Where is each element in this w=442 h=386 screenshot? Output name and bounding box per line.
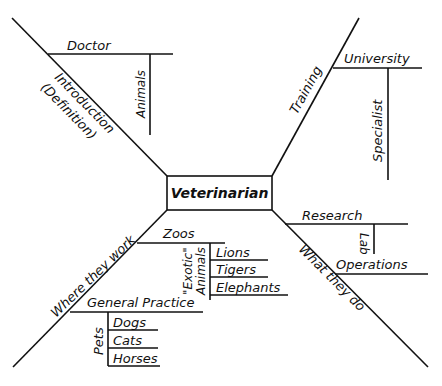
branch-where-they-work: Where they work Zoos "Exotic" Animals Li… [13, 210, 288, 367]
operations-label: Operations [336, 257, 408, 272]
spider-map-diagram: Veterinarian Introduction (Definition) D… [0, 0, 442, 386]
animals-label: Animals [134, 70, 148, 119]
training-spoke [272, 18, 359, 176]
university-label: University [344, 51, 410, 66]
lions-label: Lions [216, 245, 250, 260]
horses-label: Horses [113, 351, 158, 366]
research-label: Research [302, 208, 363, 223]
center-label: Veterinarian [171, 185, 269, 201]
zoos-label: Zoos [162, 226, 195, 241]
exotic-label: "Exotic" [181, 247, 195, 295]
lab-label: Lab [357, 233, 371, 255]
dogs-label: Dogs [113, 315, 146, 330]
general-practice-label: General Practice [87, 295, 195, 310]
branch-training: Training University Specialist [272, 18, 422, 180]
pets-label: Pets [91, 327, 106, 355]
specialist-label: Specialist [370, 99, 385, 162]
doctor-label: Doctor [67, 38, 112, 53]
cats-label: Cats [113, 333, 142, 348]
branch-introduction: Introduction (Definition) Doctor Animals [12, 18, 173, 176]
branch-what-they-do: What they do Research Lab Operations [272, 208, 428, 367]
tigers-label: Tigers [216, 262, 256, 277]
animals-group-label: Animals [194, 247, 208, 296]
center-node: Veterinarian [167, 176, 272, 210]
elephants-label: Elephants [216, 280, 281, 295]
